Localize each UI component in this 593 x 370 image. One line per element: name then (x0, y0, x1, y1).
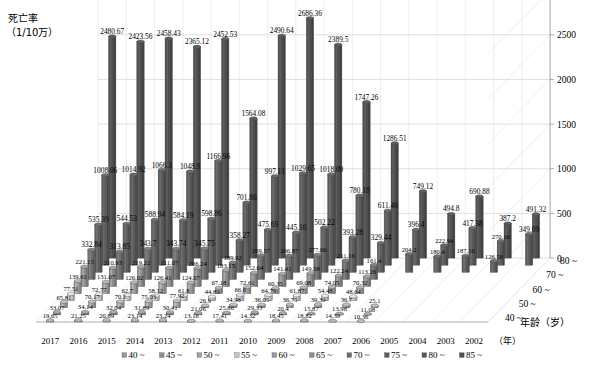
bar-top-cap (490, 259, 497, 262)
bar-value-label: 222.94 (435, 237, 454, 244)
bar-highlight (251, 118, 253, 258)
legend-swatch[interactable] (347, 353, 352, 358)
bar-value-label: 1029.65 (291, 164, 315, 173)
bar-value-label: 20.89 (99, 312, 115, 319)
bar-shadow (383, 243, 384, 272)
x-tick-label: 2017 (41, 336, 60, 346)
bar-value-label: 13.16 (184, 312, 200, 319)
bar-shadow (418, 230, 419, 265)
legend-swatch[interactable] (122, 353, 127, 358)
bar-highlight (527, 234, 529, 265)
bar-value-label: 32.04 (106, 304, 122, 311)
legend-swatch[interactable] (310, 353, 315, 358)
bar-value-label: 180.4 (430, 248, 446, 255)
bar-value-label: 2423.56 (128, 32, 152, 41)
legend-label[interactable]: 40 ~ (129, 350, 145, 360)
bar-top-cap (159, 318, 166, 321)
legend-swatch[interactable] (460, 353, 465, 358)
bar-highlight (110, 36, 112, 258)
bar-shadow (446, 245, 447, 265)
bar-shadow (108, 282, 109, 294)
legend-swatch[interactable] (385, 353, 390, 358)
bar-value-label: 1286.51 (383, 134, 407, 143)
bar-value-label: 21.25 (71, 312, 87, 319)
bar-value-label: 44.89 (205, 288, 221, 295)
bar-value-label: 269.57 (252, 247, 271, 254)
bar-top-cap (434, 254, 441, 257)
bar-highlight (435, 256, 437, 272)
depth-axis-title: 年龄（岁） (520, 316, 570, 328)
bar-top-cap (222, 268, 229, 271)
legend-label[interactable]: 60 ~ (279, 350, 295, 360)
legend-swatch[interactable] (272, 353, 277, 358)
bar-value-label: 36.7 (341, 296, 353, 303)
legend-swatch[interactable] (197, 353, 202, 358)
legend-label[interactable]: 80 ~ (429, 350, 445, 360)
bar-value-label: 417.38 (462, 219, 483, 228)
bar-value-label: 152.64 (245, 264, 264, 271)
bar-value-label: 2480.67 (100, 27, 124, 36)
legend-label[interactable]: 45 ~ (166, 350, 182, 360)
bar-value-label: 131.07 (97, 273, 116, 280)
bar-value-label: 25.86 (219, 304, 235, 311)
bar-top-cap (462, 254, 469, 257)
legend-swatch[interactable] (160, 353, 165, 358)
bar-value-label: 161.4 (367, 257, 383, 264)
bar-value-label: 149.38 (302, 265, 321, 272)
x-tick-label: 2010 (239, 336, 258, 346)
legend-label[interactable]: 65 ~ (316, 350, 332, 360)
chart-container: 0500100015002000250030002480.672423.5624… (0, 0, 593, 370)
bar-shadow (312, 18, 313, 258)
bar-value-label: 343.7 (140, 239, 157, 248)
y-tick-label: 2500 (557, 30, 576, 40)
bar-value-label: 387.2 (499, 214, 516, 223)
legend-label[interactable]: 75 ~ (391, 350, 407, 360)
y-axis-title-line2: （1/10万） (6, 27, 58, 38)
bar-shadow (79, 281, 80, 293)
bar-value-label: 204.2 (402, 246, 417, 253)
bar-top-cap (307, 271, 314, 274)
bar-value-label: 475.69 (258, 220, 279, 229)
bar-value-label: 189.92 (224, 254, 242, 261)
bar-top-cap (166, 266, 173, 269)
bar-value-label: 2452.53 (213, 30, 237, 39)
legend-label[interactable]: 50 ~ (204, 350, 220, 360)
bar-value-label: 206.24 (189, 260, 208, 267)
bar-top-cap (301, 319, 308, 322)
bar-top-cap (335, 274, 342, 277)
bar-value-label: 19.65 (43, 312, 59, 319)
bar-highlight (407, 254, 409, 272)
bar-value-label: 72.61 (240, 279, 255, 286)
bar-top-cap (131, 281, 138, 284)
bar-value-label: 21.06 (191, 305, 207, 312)
bar-top-cap (103, 318, 110, 321)
bar-shadow (256, 273, 257, 287)
legend-label[interactable]: 70 ~ (354, 350, 370, 360)
x-tick-label: 2016 (69, 336, 88, 346)
legend-label[interactable]: 55 ~ (241, 350, 257, 360)
bar-value-label: 14.32 (240, 312, 255, 319)
y-axis-ticks: 0500100015002000250030002480.672423.5624… (6, 0, 577, 360)
bar-value-label: 393.28 (343, 228, 364, 237)
legend-swatch[interactable] (235, 353, 240, 358)
bar-value-label: 211.16 (337, 252, 356, 259)
bar-value-label: 33.07 (50, 304, 66, 311)
legend-swatch[interactable] (422, 353, 427, 358)
bar-value-label: 588.94 (145, 210, 166, 219)
bar-value-label: 65.81 (57, 294, 72, 301)
legend-label[interactable]: 85 ~ (466, 350, 482, 360)
bar-value-label: 34.98 (226, 296, 242, 303)
bar-shadow (439, 256, 440, 272)
bar-value-label: 64.79 (261, 287, 277, 294)
bar-top-cap (109, 266, 116, 269)
bar-value-label: 345.75 (194, 239, 215, 248)
bar-value-label: 30.41 (163, 304, 178, 311)
bar-shadow (228, 270, 229, 286)
bar-top-cap (244, 319, 251, 322)
x-tick-label: 2006 (352, 336, 371, 346)
bar-value-label: 126.02 (125, 274, 143, 281)
bar-value-label: 77.51 (63, 285, 78, 292)
bar-shadow (305, 173, 306, 265)
bar-top-cap (279, 272, 286, 275)
x-tick-label: 2002 (465, 336, 483, 346)
